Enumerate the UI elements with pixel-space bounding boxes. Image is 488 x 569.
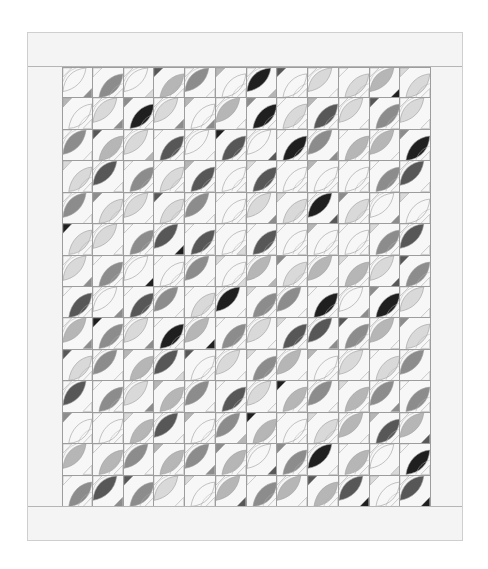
corner-triangle-bottom-right	[175, 371, 184, 380]
quilt-block	[93, 256, 124, 287]
quilt-block	[400, 413, 431, 444]
quilt-block	[400, 318, 431, 349]
quilt-block	[93, 413, 124, 444]
lens-shape	[191, 482, 215, 506]
quilt-block	[339, 413, 370, 444]
lens-shape	[63, 130, 86, 154]
quilt-block	[339, 256, 370, 287]
quilt-block	[308, 444, 339, 475]
quilt-block	[400, 161, 431, 192]
corner-triangle-bottom-right	[421, 183, 430, 192]
corner-triangle-top-left	[63, 224, 72, 233]
lens-shape	[277, 287, 301, 311]
quilt-block	[154, 287, 185, 318]
quilt-block	[154, 444, 185, 475]
quilt-block	[247, 161, 278, 192]
quilt-block	[216, 67, 247, 98]
corner-triangle-top-left	[93, 318, 102, 327]
lens-shape	[185, 256, 209, 280]
lens-shape	[406, 74, 430, 98]
quilt-block	[216, 256, 247, 287]
quilt-block	[124, 350, 155, 381]
quilt-block	[185, 130, 216, 161]
quilt-block	[154, 224, 185, 255]
quilt-block	[400, 350, 431, 381]
quilt-block	[308, 381, 339, 412]
lens-shape	[283, 325, 307, 349]
corner-triangle-bottom-right	[206, 151, 215, 160]
lens-shape	[308, 130, 332, 154]
quilt-block	[308, 224, 339, 255]
lens-shape	[308, 193, 332, 217]
quilt-block	[247, 381, 278, 412]
corner-triangle-bottom-right	[175, 308, 184, 317]
lens-shape	[247, 193, 271, 217]
quilt-block	[277, 67, 308, 98]
quilt-block	[277, 350, 308, 381]
quilt-block	[277, 130, 308, 161]
corner-triangle-top-left	[185, 287, 194, 296]
lens-shape	[99, 199, 123, 223]
corner-triangle-bottom-right	[360, 497, 369, 506]
lens-shape	[375, 167, 399, 191]
lens-shape	[283, 387, 307, 411]
corner-triangle-top-left	[308, 161, 317, 170]
quilt-block	[370, 193, 401, 224]
corner-triangle-top-left	[63, 287, 72, 296]
quilt-block	[62, 193, 93, 224]
quilt-block	[154, 130, 185, 161]
quilt-block	[185, 381, 216, 412]
quilt-block	[62, 381, 93, 412]
lens-shape	[375, 293, 399, 317]
lens-shape	[247, 444, 271, 468]
lens-shape	[339, 350, 363, 374]
quilt-image	[27, 32, 463, 541]
corner-triangle-bottom-right	[144, 151, 153, 160]
corner-triangle-bottom-right	[237, 371, 246, 380]
corner-triangle-top-left	[339, 68, 348, 77]
lens-shape	[339, 476, 363, 500]
lens-shape	[191, 167, 215, 191]
lens-shape	[93, 350, 117, 374]
quilt-block	[277, 476, 308, 507]
corner-triangle-top-left	[124, 350, 133, 359]
quilt-block	[308, 130, 339, 161]
corner-triangle-top-left	[93, 444, 102, 453]
corner-triangle-bottom-right	[83, 465, 92, 474]
lens-shape	[400, 413, 424, 437]
quilt-block	[124, 381, 155, 412]
lens-shape	[99, 74, 123, 98]
lens-shape	[406, 262, 430, 286]
quilt-block	[62, 350, 93, 381]
quilt-block	[277, 161, 308, 192]
lens-shape	[370, 381, 394, 405]
corner-triangle-bottom-right	[329, 277, 338, 286]
lens-shape	[160, 136, 184, 160]
quilt-block	[400, 130, 431, 161]
quilt-block	[339, 193, 370, 224]
lens-shape	[400, 287, 424, 311]
quilt-block	[308, 67, 339, 98]
corner-triangle-bottom-right	[329, 403, 338, 412]
lens-shape	[406, 450, 430, 474]
lens-shape	[63, 193, 86, 217]
corner-triangle-bottom-right	[114, 308, 123, 317]
lens-shape	[222, 136, 246, 160]
quilt-block	[185, 256, 216, 287]
lens-shape	[314, 293, 338, 317]
quilt-block	[370, 413, 401, 444]
corner-triangle-top-left	[277, 193, 286, 202]
corner-triangle-top-left	[154, 193, 163, 202]
quilt-block	[185, 193, 216, 224]
lens-shape	[283, 230, 307, 254]
corner-triangle-top-left	[370, 287, 379, 296]
lens-shape	[283, 136, 307, 160]
quilt-block	[370, 476, 401, 507]
corner-triangle-top-left	[247, 224, 256, 233]
quilt-block	[370, 67, 401, 98]
lens-shape	[185, 68, 209, 92]
quilt-block	[370, 287, 401, 318]
corner-triangle-bottom-right	[267, 340, 276, 349]
quilt-block	[277, 224, 308, 255]
lens-shape	[314, 167, 338, 191]
